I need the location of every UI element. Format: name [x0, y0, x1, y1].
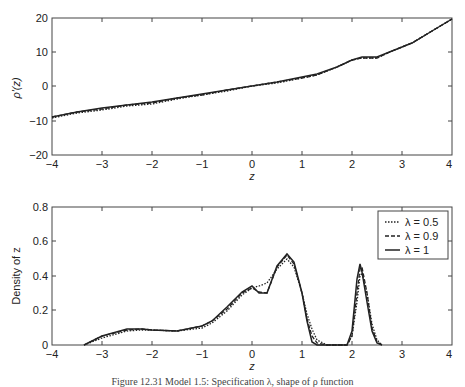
svg-text:4: 4 [446, 158, 452, 170]
legend: λ = 0.5 λ = 0.9 λ = 1 [378, 211, 448, 259]
legend-label-0.5: λ = 0.5 [405, 216, 438, 228]
bottom-x-tick-labels: −4 −3 −2 −1 0 1 2 3 4 [46, 348, 452, 360]
svg-text:0: 0 [42, 80, 48, 92]
svg-text:10: 10 [36, 46, 48, 58]
top-series-dashed [52, 19, 452, 117]
svg-text:0.2: 0.2 [33, 304, 48, 316]
top-x-axis-label: z [248, 170, 255, 182]
svg-text:−1: −1 [196, 158, 209, 170]
top-series-solid [52, 19, 452, 117]
legend-label-1: λ = 1 [405, 244, 429, 256]
svg-text:−2: −2 [146, 158, 159, 170]
svg-text:2: 2 [349, 348, 355, 360]
svg-text:−2: −2 [146, 348, 159, 360]
svg-text:0.8: 0.8 [33, 201, 48, 213]
top-series-dotted [52, 19, 452, 118]
svg-text:3: 3 [399, 348, 405, 360]
bottom-x-axis-label: z [248, 360, 255, 372]
svg-text:4: 4 [446, 348, 452, 360]
svg-text:3: 3 [399, 158, 405, 170]
bottom-y-axis-label: Density of z [10, 247, 22, 304]
svg-text:−1: −1 [196, 348, 209, 360]
svg-text:1: 1 [299, 348, 305, 360]
bottom-chart: 0.8 0.6 0.4 0.2 0 −4 −3 −2 −1 0 1 2 3 4 … [10, 201, 452, 372]
svg-text:−3: −3 [96, 348, 109, 360]
svg-text:20: 20 [36, 12, 48, 24]
top-x-tick-labels: −4 −3 −2 −1 0 1 2 3 4 [46, 158, 452, 170]
svg-text:−4: −4 [46, 348, 59, 360]
svg-text:−4: −4 [46, 158, 59, 170]
svg-text:1: 1 [299, 158, 305, 170]
svg-text:−3: −3 [96, 158, 109, 170]
top-y-axis-label: ρ'(z) [10, 77, 22, 100]
svg-text:0: 0 [249, 348, 255, 360]
bottom-y-tick-labels: 0.8 0.6 0.4 0.2 0 [33, 201, 48, 351]
legend-label-0.9: λ = 0.9 [405, 230, 438, 242]
bottom-series-solid [84, 254, 382, 345]
top-y-tick-labels: 20 10 0 −10 −20 [29, 12, 48, 161]
svg-text:0.6: 0.6 [33, 235, 48, 247]
svg-text:−10: −10 [29, 115, 48, 127]
svg-text:0.4: 0.4 [33, 270, 48, 282]
top-chart: 20 10 0 −10 −20 −4 −3 −2 −1 0 1 2 3 4 z … [10, 12, 452, 182]
svg-text:0: 0 [249, 158, 255, 170]
figure-caption: Figure 12.31 Model 1.5: Specification λ,… [0, 376, 465, 387]
svg-text:2: 2 [349, 158, 355, 170]
